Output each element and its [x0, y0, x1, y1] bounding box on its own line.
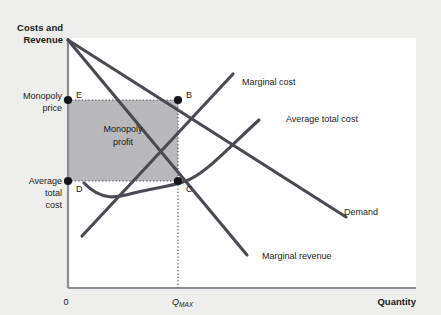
point-label-C: C	[186, 184, 193, 194]
monopoly-profit-label-line1: Monopoly	[103, 124, 143, 134]
curve-label-average-total-cost: Average total cost	[286, 114, 358, 124]
y-tick-average-total-cost-line2: total	[45, 188, 62, 198]
curve-label-marginal-revenue: Marginal revenue	[262, 251, 332, 261]
point-D-dot	[64, 177, 72, 185]
point-label-B: B	[186, 90, 192, 100]
y-tick-average-total-cost-line1: Average	[29, 176, 62, 186]
point-label-D: D	[76, 184, 83, 194]
point-B-dot	[174, 96, 182, 104]
y-tick-average-total-cost-line3: cost	[45, 200, 62, 210]
curve-label-demand: Demand	[344, 207, 378, 217]
monopoly-profit-chart: E B D C Costs and Revenue Monopoly price…	[0, 0, 441, 315]
point-C-dot	[174, 177, 182, 185]
monopoly-profit-label-line2: profit	[113, 137, 134, 147]
y-tick-monopoly-price-line1: Monopoly	[23, 91, 63, 101]
curve-label-marginal-cost: Marginal cost	[242, 77, 296, 87]
x-tick-q-max-base: Q	[172, 297, 179, 307]
x-tick-q-max-subscript: MAX	[179, 301, 194, 308]
y-tick-monopoly-price-line2: price	[42, 103, 62, 113]
origin-label: 0	[63, 297, 68, 307]
monopoly-profit-figure: E B D C Costs and Revenue Monopoly price…	[0, 0, 441, 315]
x-tick-q-max: QMAX	[172, 297, 194, 308]
point-label-E: E	[76, 90, 82, 100]
y-axis-title-line2: Revenue	[23, 34, 63, 45]
point-E-dot	[64, 96, 72, 104]
x-axis-title: Quantity	[377, 296, 416, 307]
y-axis-title-line1: Costs and	[17, 22, 63, 33]
